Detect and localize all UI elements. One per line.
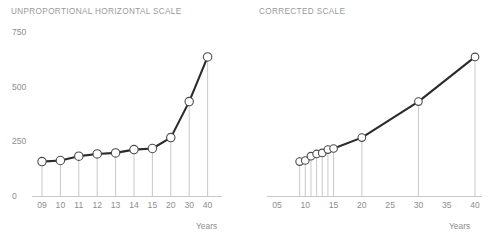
x-tick-label-left: 09	[37, 200, 47, 210]
y-tick-label-left: 750	[12, 27, 26, 37]
data-point-marker	[203, 53, 211, 61]
x-tick-label-right: 30	[414, 200, 424, 210]
data-point-marker	[415, 98, 423, 106]
x-tick-label-right: 35	[442, 200, 452, 210]
x-tick-label-right: 20	[357, 200, 367, 210]
plot-area-right	[246, 0, 493, 246]
x-tick-label-left: 14	[129, 200, 139, 210]
x-axis-caption-left: Years	[196, 221, 217, 231]
x-tick-label-left: 40	[203, 200, 213, 210]
x-tick-label-right: 40	[470, 200, 480, 210]
data-point-marker	[330, 145, 338, 153]
chart-panel-corrected: CORRECTED SCALE 0510152025303540 Years	[246, 0, 493, 246]
x-tick-label-right: 10	[301, 200, 311, 210]
data-point-marker	[38, 157, 46, 165]
x-tick-label-left: 12	[92, 200, 102, 210]
data-point-marker	[358, 134, 366, 142]
y-tick-label-left: 250	[12, 136, 26, 146]
data-point-marker	[185, 97, 193, 105]
drop-lines-left	[42, 57, 208, 197]
y-tick-label-left: 0	[12, 191, 17, 201]
x-axis-caption-right: Years	[449, 221, 470, 231]
series-markers-right	[296, 53, 479, 165]
data-point-marker	[56, 156, 64, 164]
x-tick-label-right: 15	[329, 200, 339, 210]
data-point-marker	[111, 149, 119, 157]
x-tick-label-left: 10	[56, 200, 66, 210]
x-tick-label-left: 30	[184, 200, 194, 210]
data-point-marker	[130, 145, 138, 153]
x-tick-label-left: 13	[111, 200, 121, 210]
data-point-marker	[167, 133, 175, 141]
y-tick-label-left: 500	[12, 82, 26, 92]
x-tick-label-right: 25	[385, 200, 395, 210]
data-point-marker	[471, 53, 479, 61]
data-point-marker	[75, 152, 83, 160]
x-tick-label-left: 11	[74, 200, 83, 210]
series-line-left	[42, 57, 208, 162]
data-point-marker	[148, 144, 156, 152]
chart-panel-unproportional: UNPROPORTIONAL HORIZONTAL SCALE 75050025…	[0, 0, 247, 246]
x-tick-label-left: 20	[166, 200, 176, 210]
x-tick-label-right: 05	[272, 200, 282, 210]
x-tick-label-left: 15	[148, 200, 158, 210]
line-chart-right-svg	[246, 0, 493, 246]
data-point-marker	[93, 150, 101, 158]
